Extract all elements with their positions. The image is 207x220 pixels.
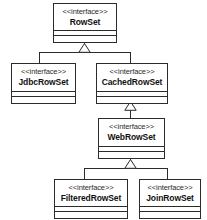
uml-class-cachedrowset[interactable]: <<interface>> CachedRowSet [96, 63, 168, 104]
uml-class-jdbcrowset[interactable]: <<interface>> JdbcRowSet [11, 63, 76, 104]
uml-stereotype-label: <<interface>> [21, 67, 66, 76]
uml-operations-compartment [99, 152, 164, 158]
uml-name-compartment: <<interface>> JoinRowSet [140, 180, 200, 207]
connector-webrowset-to-joinrowset [167, 168, 168, 179]
uml-operations-compartment [55, 212, 127, 218]
uml-class-name-label: RowSet [70, 17, 101, 27]
connector-rowset-to-jdbcrowset [39, 52, 40, 63]
uml-class-name-label: WebRowSet [107, 132, 155, 142]
uml-class-name-label: JdbcRowSet [18, 77, 68, 87]
uml-stereotype-label: <<interface>> [148, 183, 193, 192]
uml-name-compartment: <<interface>> FilteredRowSet [55, 180, 127, 207]
uml-class-joinrowset[interactable]: <<interface>> JoinRowSet [139, 179, 201, 219]
uml-stereotype-label: <<interface>> [69, 183, 114, 192]
uml-diagram-canvas: <<interface>> RowSet <<interface>> JdbcR… [0, 0, 207, 220]
uml-stereotype-label: <<interface>> [63, 7, 108, 16]
uml-stereotype-label: <<interface>> [110, 67, 155, 76]
uml-class-rowset[interactable]: <<interface>> RowSet [53, 3, 117, 43]
uml-name-compartment: <<interface>> RowSet [54, 4, 116, 31]
uml-name-compartment: <<interface>> JdbcRowSet [12, 64, 75, 92]
uml-class-filteredrowset[interactable]: <<interface>> FilteredRowSet [54, 179, 128, 219]
uml-class-name-label: JoinRowSet [146, 193, 194, 203]
connector-rowset-to-cachedrowset [130, 52, 131, 63]
uml-operations-compartment [54, 36, 116, 42]
uml-operations-compartment [97, 97, 167, 103]
uml-operations-compartment [12, 97, 75, 103]
connector-webrowset-to-filteredrowset [84, 168, 85, 179]
uml-operations-compartment [140, 212, 200, 218]
uml-name-compartment: <<interface>> WebRowSet [99, 119, 164, 147]
uml-stereotype-label: <<interface>> [109, 122, 154, 131]
uml-class-name-label: FilteredRowSet [61, 193, 121, 203]
uml-class-name-label: CachedRowSet [102, 77, 163, 87]
uml-class-webrowset[interactable]: <<interface>> WebRowSet [98, 118, 165, 159]
uml-name-compartment: <<interface>> CachedRowSet [97, 64, 167, 92]
